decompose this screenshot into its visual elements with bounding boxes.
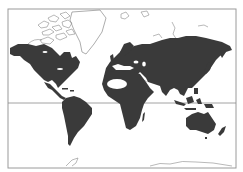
madagascar bbox=[142, 112, 145, 122]
arctic-islands-outline bbox=[28, 12, 75, 44]
caribbean-islands bbox=[62, 88, 74, 92]
greenland-outline bbox=[70, 10, 106, 54]
antarctic-peninsula-outline bbox=[66, 158, 78, 166]
new-zealand bbox=[218, 126, 226, 136]
sahara-highlight bbox=[107, 79, 127, 89]
south-america bbox=[62, 96, 92, 146]
world-map bbox=[0, 0, 243, 172]
tasmania bbox=[205, 137, 207, 139]
antarctica-outline bbox=[150, 161, 232, 166]
central-america bbox=[44, 82, 66, 100]
north-america bbox=[10, 44, 80, 88]
australia bbox=[186, 112, 216, 134]
